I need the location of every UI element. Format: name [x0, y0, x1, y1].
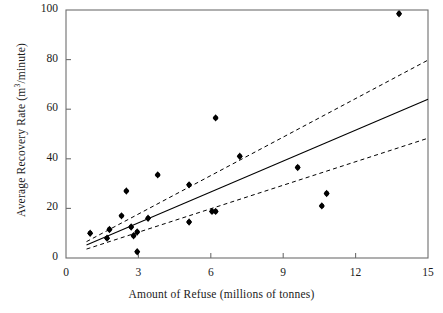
data-point-diamond	[319, 202, 325, 209]
data-point	[128, 223, 134, 230]
data-point	[87, 230, 93, 237]
data-point-diamond	[186, 181, 192, 188]
data-point	[324, 190, 330, 197]
data-point-diamond	[134, 248, 140, 255]
data-point	[396, 10, 402, 17]
data-point-diamond	[145, 215, 151, 222]
x-tick-label: 12	[336, 266, 376, 278]
x-tick-label: 0	[46, 266, 86, 278]
x-tick-label: 3	[118, 266, 158, 278]
data-point-diamond	[106, 226, 112, 233]
x-axis-title: Amount of Refuse (millions of tonnes)	[0, 288, 443, 300]
plot-frame	[66, 10, 428, 258]
data-point	[186, 181, 192, 188]
data-point	[319, 202, 325, 209]
data-point-diamond	[213, 114, 219, 121]
y-tick-label: 80	[14, 52, 58, 64]
y-axis-title-superscript: 3	[13, 84, 22, 88]
data-point-diamond	[123, 187, 129, 194]
y-tick-label: 20	[14, 200, 58, 212]
y-axis-title: Average Recovery Rate (m3/minute)	[15, 5, 27, 255]
data-point-diamond	[155, 171, 161, 178]
data-point	[123, 187, 129, 194]
y-tick-label: 100	[14, 2, 58, 14]
scatter-chart: Average Recovery Rate (m3/minute) Amount…	[0, 0, 443, 313]
data-point-diamond	[87, 230, 93, 237]
y-tick-label: 40	[14, 151, 58, 163]
data-point	[145, 215, 151, 222]
data-point-diamond	[396, 10, 402, 17]
data-point-diamond	[186, 218, 192, 225]
regression-line	[87, 99, 428, 245]
x-tick-label: 15	[408, 266, 443, 278]
data-point	[213, 208, 219, 215]
y-tick-label: 0	[14, 250, 58, 262]
data-point	[295, 164, 301, 171]
data-point-diamond	[213, 208, 219, 215]
data-point-diamond	[128, 223, 134, 230]
data-point	[186, 218, 192, 225]
data-point-diamond	[119, 212, 125, 219]
data-point	[155, 171, 161, 178]
y-tick-label: 60	[14, 101, 58, 113]
data-point	[213, 114, 219, 121]
x-tick-label: 9	[263, 266, 303, 278]
upper-confidence-band	[87, 60, 428, 242]
data-point-diamond	[295, 164, 301, 171]
data-point-diamond	[324, 190, 330, 197]
x-tick-label: 6	[191, 266, 231, 278]
data-point	[119, 212, 125, 219]
data-point	[134, 248, 140, 255]
data-point	[106, 226, 112, 233]
